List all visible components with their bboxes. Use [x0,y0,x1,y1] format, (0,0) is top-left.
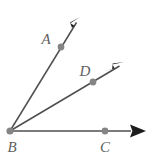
point-label-a: A [40,31,51,47]
point-dot-d [90,79,97,86]
point-dot-b [6,127,13,134]
point-dot-c [102,128,109,135]
point-label-d: D [79,63,91,79]
point-label-c: C [100,139,111,155]
point-dot-a [58,44,65,51]
point-label-b: B [7,139,16,155]
angle-diagram-svg: A B C D [0,0,156,156]
angle-diagram-figure: A B C D [0,0,156,156]
